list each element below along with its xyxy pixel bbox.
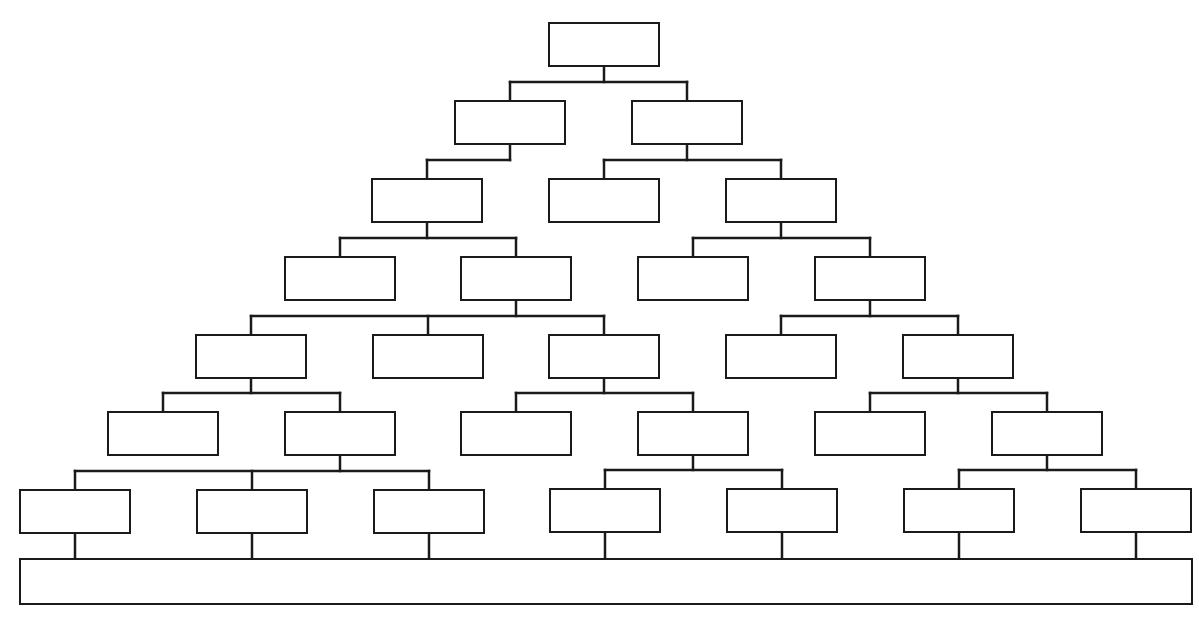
tree-node-l4-4: [814, 256, 926, 301]
tree-node-l5-2: [372, 334, 484, 379]
tree-node-l4-2: [460, 256, 572, 301]
tree-node-l7-1: [19, 489, 131, 534]
tree-node-l7-5: [726, 488, 838, 533]
tree-node-l3-2: [548, 178, 660, 223]
tree-node-l6-1: [107, 411, 219, 456]
tree-node-l5-5: [902, 334, 1014, 379]
tree-node-l5-3: [548, 334, 660, 379]
tree-node-l3-1: [371, 178, 483, 223]
tree-node-l2-2: [631, 100, 743, 145]
tree-node-l7-4: [549, 488, 661, 533]
tree-node-l6-5: [814, 411, 926, 456]
tree-node-l3-3: [725, 178, 837, 223]
tree-node-l6-3: [460, 411, 572, 456]
tree-node-l5-4: [725, 334, 837, 379]
tree-node-l5-1: [195, 334, 307, 379]
tree-node-l7-3: [373, 489, 485, 534]
tree-node-l2-1: [454, 100, 566, 145]
tree-diagram: [0, 0, 1199, 618]
tree-node-l6-4: [637, 411, 749, 456]
tree-node-l7-7: [1080, 488, 1192, 533]
tree-node-l7-2: [196, 489, 308, 534]
tree-node-l4-3: [637, 256, 749, 301]
tree-node-l7-6: [903, 488, 1015, 533]
tree-node-l1-1: [548, 22, 660, 67]
tree-node-l6-6: [991, 411, 1103, 456]
tree-node-l4-1: [284, 256, 396, 301]
tree-node-l6-2: [284, 411, 396, 456]
base-bar-box: [19, 558, 1193, 605]
